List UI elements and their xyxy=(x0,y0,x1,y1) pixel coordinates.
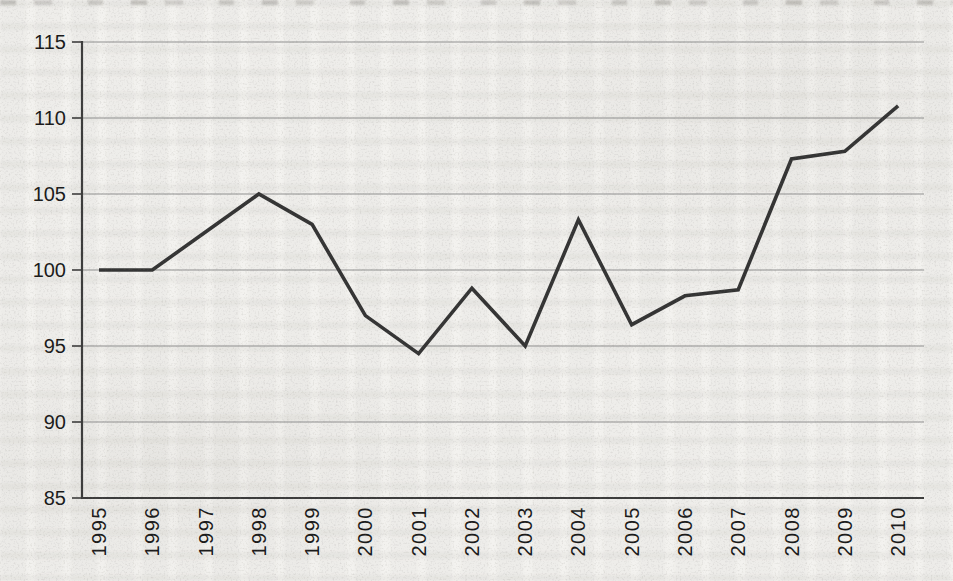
scan-grain-overlay xyxy=(0,0,953,581)
scanned-book-page: 859095100105110115 199519961997199819992… xyxy=(0,0,953,581)
line-chart: 859095100105110115 199519961997199819992… xyxy=(0,0,953,581)
